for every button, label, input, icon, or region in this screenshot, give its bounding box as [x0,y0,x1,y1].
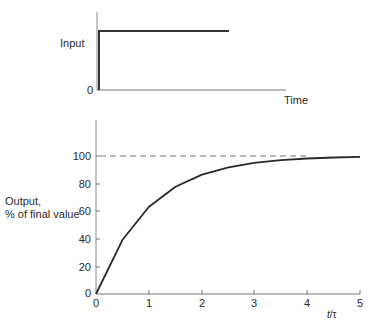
x-label-tau: /τ [330,309,337,320]
x-tick-label: 3 [247,298,261,309]
output-response-curve [96,157,360,294]
top-x-label: Time [284,94,308,107]
bottom-y-label-line1: Output, [5,195,41,208]
y-tick-label: 20 [67,262,91,273]
y-tick-label: 60 [67,206,91,217]
x-tick-label: 5 [353,298,367,309]
x-tick-label: 1 [142,298,156,309]
x-tick-label: 0 [89,298,103,309]
top-zero-label: 0 [87,84,93,97]
x-tick-label: 2 [195,298,209,309]
y-ticks [96,156,100,267]
step-input-line [99,31,229,90]
y-tick-label: 40 [67,234,91,245]
y-tick-label: 0 [67,288,91,299]
y-tick-label: 100 [67,151,91,162]
y-tick-label: 80 [67,179,91,190]
bottom-x-label: t/τ [327,308,337,321]
charts-canvas [0,0,383,334]
x-tick-label: 4 [300,298,314,309]
x-ticks [149,290,360,294]
top-y-label: Input [60,37,84,50]
